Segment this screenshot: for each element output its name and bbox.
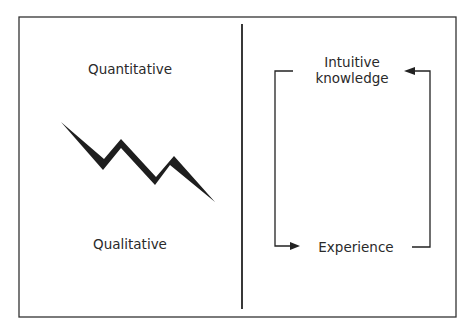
arrow-to-intuitive-knowledge — [412, 71, 430, 247]
label-qualitative: Qualitative — [60, 236, 200, 252]
label-knowledge: knowledge — [292, 70, 412, 86]
label-quantitative: Quantitative — [60, 61, 200, 77]
label-experience: Experience — [300, 239, 412, 255]
diagram-canvas — [0, 0, 471, 331]
label-intuitive: Intuitive — [292, 54, 412, 70]
zigzag-icon — [61, 122, 215, 202]
arrow-to-experience — [275, 71, 293, 246]
arrowhead-right-icon — [290, 242, 300, 250]
diagram: Quantitative Qualitative Intuitive knowl… — [0, 0, 471, 331]
